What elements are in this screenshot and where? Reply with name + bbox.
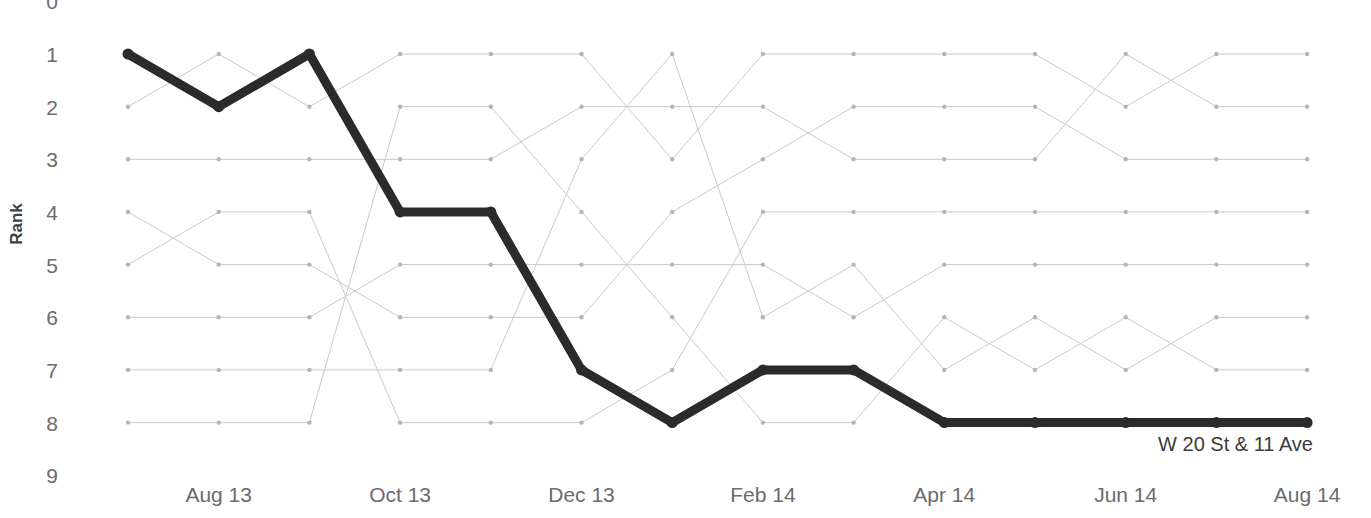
data-point-4 [489,315,493,319]
data-point-9 [942,52,946,56]
data-point-3 [398,262,402,266]
data-point-7 [761,105,765,109]
data-point-13 [1305,210,1309,214]
data-point-8 [851,262,855,266]
data-point-5 [579,52,583,56]
data-point-9 [942,105,946,109]
data-point-5 [579,315,583,319]
data-point-5 [579,420,583,424]
data-point-10 [1033,52,1037,56]
data-point-10 [1033,105,1037,109]
data-point-11 [1124,52,1128,56]
data-point-9 [942,368,946,372]
data-point-13 [1305,105,1309,109]
data-point-7 [761,315,765,319]
data-point-7 [761,262,765,266]
data-point-6 [670,52,674,56]
data-point-0 [126,105,130,109]
data-point-5 [579,210,583,214]
data-point-1 [217,368,221,372]
data-point-13 [1305,157,1309,161]
data-point-4 [489,420,493,424]
data-point-3 [398,315,402,319]
data-point-1[interactable] [213,101,224,112]
data-point-9[interactable] [939,417,950,428]
data-point-0 [126,157,130,161]
data-point-13 [1305,315,1309,319]
data-point-4 [489,368,493,372]
data-point-5[interactable] [576,364,587,375]
data-point-6 [670,105,674,109]
data-point-6 [670,368,674,372]
background-series-layer [126,52,1310,425]
data-point-4 [489,157,493,161]
data-point-0 [126,262,130,266]
series-line [128,54,1307,159]
data-point-1 [217,52,221,56]
data-point-10[interactable] [1030,417,1041,428]
data-point-11[interactable] [1120,417,1131,428]
data-point-5 [579,105,583,109]
data-point-6 [670,157,674,161]
data-point-7 [761,210,765,214]
data-point-1 [217,420,221,424]
data-point-3 [398,52,402,56]
data-point-9 [942,210,946,214]
data-point-13 [1305,52,1309,56]
series-highlighted[interactable] [123,49,1313,429]
data-point-2[interactable] [304,49,315,60]
data-point-9 [942,262,946,266]
data-point-10 [1033,262,1037,266]
data-point-12[interactable] [1211,417,1222,428]
data-point-13[interactable] [1302,417,1313,428]
data-point-3[interactable] [395,206,406,217]
data-point-2 [307,420,311,424]
data-point-7 [761,52,765,56]
data-point-12 [1214,157,1218,161]
series-end-label: W 20 St & 11 Ave [1158,434,1313,454]
data-point-12 [1214,262,1218,266]
data-point-0 [126,210,130,214]
series-background-2 [126,52,1310,162]
data-point-12 [1214,368,1218,372]
data-point-12 [1214,52,1218,56]
data-point-4[interactable] [485,206,496,217]
data-point-3 [398,157,402,161]
data-point-7 [761,420,765,424]
data-point-0 [126,420,130,424]
data-point-4 [489,105,493,109]
data-point-1 [217,157,221,161]
data-point-8[interactable] [848,364,859,375]
data-point-12 [1214,210,1218,214]
data-point-3 [398,368,402,372]
data-point-0 [126,315,130,319]
data-point-11 [1124,157,1128,161]
data-point-2 [307,210,311,214]
data-point-2 [307,157,311,161]
data-point-8 [851,52,855,56]
data-point-11 [1124,105,1128,109]
data-point-8 [851,315,855,319]
data-point-11 [1124,368,1128,372]
data-point-0[interactable] [123,49,134,60]
data-point-10 [1033,210,1037,214]
data-point-12 [1214,105,1218,109]
highlighted-series-layer [123,49,1313,429]
data-point-4 [489,262,493,266]
data-point-7 [761,157,765,161]
data-point-3 [398,105,402,109]
data-point-2 [307,368,311,372]
data-point-8 [851,210,855,214]
data-point-6 [670,315,674,319]
bump-chart: Rank 0123456789 Aug 13Oct 13Dec 13Feb 14… [0,0,1371,518]
data-point-7[interactable] [757,364,768,375]
data-point-6 [670,210,674,214]
data-point-12 [1214,315,1218,319]
data-point-6[interactable] [667,417,678,428]
data-point-10 [1033,157,1037,161]
data-point-11 [1124,210,1128,214]
data-point-1 [217,262,221,266]
data-point-5 [579,262,583,266]
data-point-3 [398,420,402,424]
data-point-2 [307,315,311,319]
